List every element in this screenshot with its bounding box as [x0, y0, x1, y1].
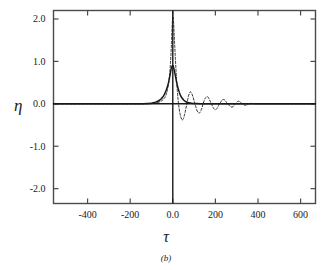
x-tick-label: 400: [250, 209, 265, 220]
x-axis-ticks: [88, 11, 301, 204]
x-tick-label: 0.0: [167, 209, 180, 220]
y-axis-label: η: [14, 97, 22, 114]
x-tick-label: -200: [121, 209, 139, 220]
y-tick-label: 1.0: [33, 56, 46, 67]
x-axis-label: τ: [163, 229, 169, 245]
y-tick-label: -2.0: [30, 183, 46, 194]
plot-frame: [54, 11, 316, 204]
x-tick-label: 200: [208, 209, 223, 220]
x-axis-tick-labels: -400-2000.0200400600: [78, 209, 308, 220]
y-axis-tick-labels: 2.01.00.0-1.0-2.0: [30, 13, 46, 194]
x-tick-label: -400: [78, 209, 96, 220]
chart-figure: -400-2000.0200400600 2.01.00.0-1.0-2.0: [0, 0, 324, 270]
x-tick-label: 600: [293, 209, 308, 220]
y-tick-label: -1.0: [30, 141, 46, 152]
figure-caption: (b): [161, 254, 172, 263]
y-tick-label: 0.0: [33, 98, 46, 109]
series-line-solid: [54, 66, 316, 104]
y-tick-label: 2.0: [33, 13, 46, 24]
